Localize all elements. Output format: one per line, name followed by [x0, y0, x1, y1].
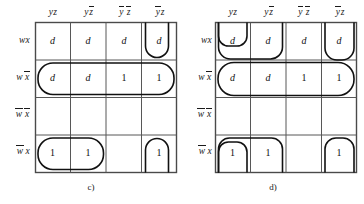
map-d-cell-r4c1: 1: [215, 148, 250, 158]
map-c-cell-r1c4: d: [141, 36, 177, 46]
map-d-cell-r1c2: d: [250, 36, 286, 46]
map-c-cell-r2c3: 1: [106, 73, 142, 83]
map-c-cell-r2c2: d: [70, 73, 106, 83]
map-d-cell-r4c4: 1: [321, 148, 357, 158]
map-d-cell-r2c4: 1: [321, 73, 357, 83]
map-c-cell-r2c1: d: [35, 73, 70, 83]
karnaugh-map-c: yz yz y z yz wx w x w x w x: [0, 0, 182, 204]
map-c-cell-r1c1: d: [35, 36, 70, 46]
map-d-cell-r1c4: d: [321, 36, 357, 46]
karnaugh-map-d: yz yz y z yz wx w x w x w x: [182, 0, 364, 204]
map-d-cell-r2c2: d: [250, 73, 286, 83]
map-c-caption: c): [0, 182, 182, 192]
map-c-cell-r2c4: 1: [141, 73, 177, 83]
map-d-caption: d): [182, 182, 364, 192]
map-d-cell-r1c1: d: [215, 36, 250, 46]
map-c-cell-r4c1: 1: [35, 148, 70, 158]
map-c-canvas: [0, 0, 182, 204]
map-d-cell-r1c3: d: [286, 36, 322, 46]
map-d-cell-r2c1: d: [215, 73, 250, 83]
map-c-cell-r4c4: 1: [141, 148, 177, 158]
map-d-cell-r2c3: 1: [286, 73, 322, 83]
map-d-cell-r4c2: 1: [250, 148, 286, 158]
map-c-cell-r4c2: 1: [70, 148, 106, 158]
figure-sheet: yz yz y z yz wx w x w x w x: [0, 0, 364, 204]
map-c-cell-r1c3: d: [106, 36, 142, 46]
map-d-canvas: [182, 0, 364, 204]
map-c-cell-r1c2: d: [70, 36, 106, 46]
